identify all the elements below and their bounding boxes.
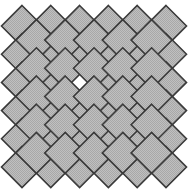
diamond-tile-group [2, 6, 187, 188]
pattern-canvas [0, 0, 188, 191]
diamond-lattice-graphic [0, 0, 188, 191]
